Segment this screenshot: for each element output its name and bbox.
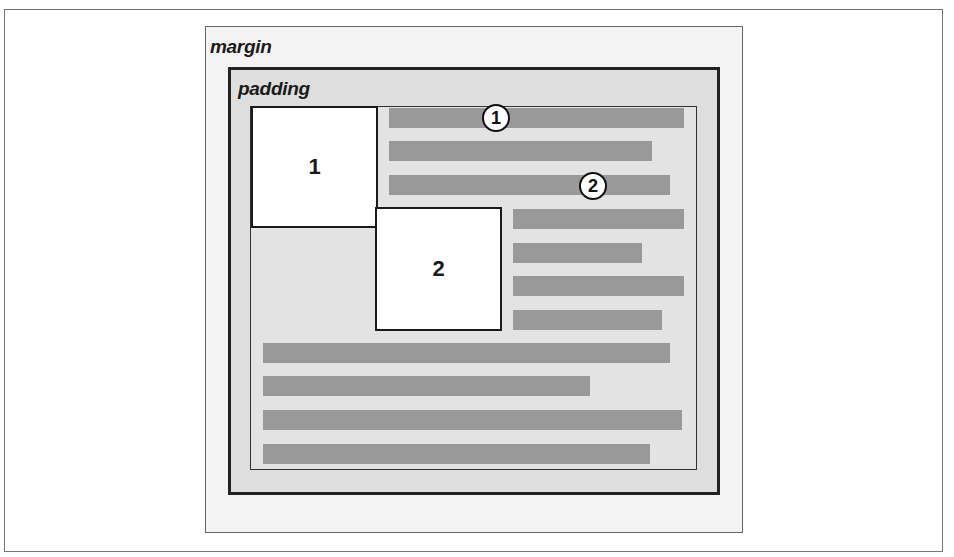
text-line-placeholder <box>263 410 682 430</box>
callout-number: 2 <box>588 176 598 197</box>
float-box-label: 2 <box>432 256 444 282</box>
text-line-placeholder <box>389 141 652 161</box>
text-line-placeholder <box>389 108 684 128</box>
float-box-label: 1 <box>308 154 320 180</box>
float-box-2: 2 <box>375 207 502 331</box>
text-line-placeholder <box>513 209 684 229</box>
text-line-placeholder <box>263 444 650 464</box>
text-line-placeholder <box>513 243 642 263</box>
text-line-placeholder <box>263 376 590 396</box>
text-line-placeholder <box>389 175 670 195</box>
float-box-1: 1 <box>251 106 378 228</box>
callout-number: 1 <box>491 108 501 129</box>
padding-label: padding <box>238 78 310 100</box>
callout-circle-1: 1 <box>482 104 510 132</box>
text-line-placeholder <box>513 276 684 296</box>
text-line-placeholder <box>263 343 670 363</box>
text-line-placeholder <box>513 310 662 330</box>
margin-label: margin <box>210 36 272 58</box>
callout-circle-2: 2 <box>579 172 607 200</box>
